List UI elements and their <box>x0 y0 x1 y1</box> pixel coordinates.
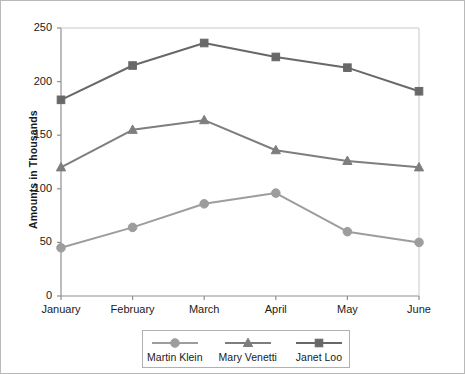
data-point-circle <box>415 238 424 247</box>
legend-label: Janet Loo <box>296 351 342 363</box>
line-chart-plot <box>1 1 465 374</box>
legend-label: Mary Venetti <box>219 351 277 363</box>
chart-figure: Amounts in Thousands 050100150200250 Jan… <box>0 0 465 374</box>
series-mary-venetti <box>56 115 423 171</box>
series-line <box>61 193 419 248</box>
y-tick-label: 0 <box>46 289 52 301</box>
data-point-square <box>200 39 208 47</box>
legend-swatch-square <box>293 336 345 350</box>
y-tick-label: 200 <box>34 75 52 87</box>
data-point-square <box>272 53 280 61</box>
data-point-circle <box>200 200 209 209</box>
data-point-square <box>315 339 323 347</box>
legend-entry-janet-loo[interactable]: Janet Loo <box>285 336 353 363</box>
data-point-circle <box>128 223 137 232</box>
data-point-circle <box>57 243 66 252</box>
x-tick-label: June <box>369 303 465 315</box>
series-martin-klein <box>57 189 424 252</box>
series-janet-loo <box>57 39 423 103</box>
series-line <box>61 120 419 167</box>
series-line <box>61 43 419 100</box>
y-tick-label: 250 <box>34 21 52 33</box>
data-point-square <box>57 96 65 104</box>
data-point-circle <box>343 227 352 236</box>
data-point-circle <box>272 189 281 198</box>
data-point-square <box>415 87 423 95</box>
legend-entry-mary-venetti[interactable]: Mary Venetti <box>211 336 285 363</box>
legend-swatch-triangle <box>222 336 274 350</box>
chart-legend: Martin KleinMary VenettiJanet Loo <box>142 330 350 368</box>
data-point-circle <box>171 338 180 347</box>
legend-label: Martin Klein <box>147 351 202 363</box>
data-point-square <box>129 62 137 70</box>
y-tick-label: 150 <box>34 128 52 140</box>
data-point-square <box>344 64 352 72</box>
legend-entry-martin-klein[interactable]: Martin Klein <box>139 336 210 363</box>
legend-swatch-circle <box>149 336 201 350</box>
y-tick-label: 100 <box>34 182 52 194</box>
y-tick-label: 50 <box>40 235 52 247</box>
data-point-triangle <box>200 115 209 123</box>
